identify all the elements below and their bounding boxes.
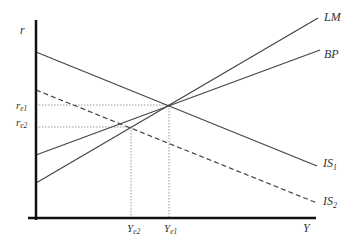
is1-curve <box>36 52 317 166</box>
is2-curve <box>36 90 317 203</box>
lm-label: LM <box>323 10 342 24</box>
x-axis-label: Y <box>303 221 311 235</box>
y-axis-label: r <box>20 23 25 37</box>
ye1-label: Ye1 <box>164 222 177 236</box>
is2-label: IS2 <box>322 194 337 210</box>
is-lm-bp-diagram: r Y LM BP IS1 IS2 re1 re2 Ye2 Ye1 <box>0 0 355 246</box>
bp-curve <box>36 50 320 155</box>
ye2-label: Ye2 <box>127 222 140 236</box>
lm-curve <box>36 18 318 183</box>
re1-label: re1 <box>16 99 27 113</box>
is1-label: IS1 <box>322 156 337 172</box>
re2-label: re2 <box>16 116 28 130</box>
bp-label: BP <box>324 47 339 61</box>
